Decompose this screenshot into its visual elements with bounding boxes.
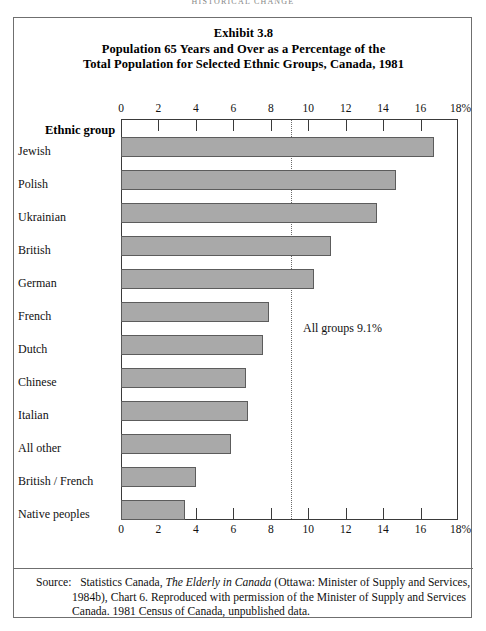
source-publication-title: The Elderly in Canada	[165, 576, 271, 589]
category-label-german: German	[18, 276, 118, 291]
xtick-label-bottom-14: 14	[377, 523, 389, 535]
xtick-label-bottom-8: 8	[268, 523, 274, 535]
bar-dutch[interactable]	[121, 335, 263, 355]
bar-native-peoples[interactable]	[121, 500, 185, 520]
all-groups-annotation: All groups 9.1%	[303, 321, 382, 336]
xtick-label-top-12: 12	[340, 102, 352, 114]
xtick-label-bottom-2: 2	[156, 523, 162, 535]
bar-british[interactable]	[121, 236, 331, 256]
xtick-label-top-14: 14	[377, 102, 389, 114]
category-label-polish: Polish	[18, 177, 118, 192]
category-label-jewish: Jewish	[18, 144, 118, 159]
tick-top-14	[383, 120, 384, 131]
category-label-british-french: British / French	[18, 474, 118, 489]
tick-bottom-14	[383, 508, 384, 519]
tick-top-0	[121, 120, 122, 131]
bar-ukrainian[interactable]	[121, 203, 377, 223]
page-running-header: HISTORICAL CHANGE	[0, 0, 486, 6]
top-axis-line	[121, 119, 458, 120]
tick-bottom-12	[346, 508, 347, 519]
xtick-label-bottom-0: 0	[118, 523, 124, 535]
xtick-label-top-6: 6	[230, 102, 236, 114]
bar-french[interactable]	[121, 302, 269, 322]
tick-top-2	[158, 120, 159, 131]
category-label-ukrainian: Ukrainian	[18, 210, 118, 225]
bar-polish[interactable]	[121, 170, 396, 190]
xtick-label-top-2: 2	[156, 102, 162, 114]
source-note: Source: Statistics Canada, The Elderly i…	[36, 576, 486, 620]
source-text-before: Statistics Canada,	[80, 576, 165, 589]
tick-top-8	[271, 120, 272, 131]
category-label-dutch: Dutch	[18, 342, 118, 357]
category-label-native-peoples: Native peoples	[18, 507, 118, 522]
xtick-label-top-0: 0	[118, 102, 124, 114]
tick-top-16	[421, 120, 422, 131]
tick-bottom-4	[196, 508, 197, 519]
bar-all-other[interactable]	[121, 434, 231, 454]
tick-bottom-10	[308, 508, 309, 519]
bar-italian[interactable]	[121, 401, 248, 421]
source-label: Source:	[36, 576, 71, 589]
exhibit-frame: Exhibit 3.8 Population 65 Years and Over…	[13, 17, 472, 618]
plot-area: 0 2 4 6 8 10 12 14 16 18% 0 2 4 6 8 10 1…	[121, 119, 458, 519]
tick-top-12	[346, 120, 347, 131]
bar-british-french[interactable]	[121, 467, 196, 487]
category-label-column: Jewish Polish Ukrainian British German F…	[32, 119, 118, 519]
tick-top-10	[308, 120, 309, 131]
bar-chart: Ethnic group Jewish Polish Ukrainian Bri…	[14, 18, 473, 619]
category-label-french: French	[18, 309, 118, 324]
xtick-label-top-18: 18%	[450, 102, 471, 114]
xtick-label-bottom-10: 10	[302, 523, 314, 535]
xtick-label-top-8: 8	[268, 102, 274, 114]
xtick-label-bottom-6: 6	[230, 523, 236, 535]
right-axis-line	[457, 119, 458, 520]
category-label-chinese: Chinese	[18, 375, 118, 390]
tick-bottom-8	[271, 508, 272, 519]
bar-jewish[interactable]	[121, 137, 434, 157]
xtick-label-top-4: 4	[193, 102, 199, 114]
xtick-label-bottom-18: 18%	[450, 523, 471, 535]
tick-top-6	[233, 120, 234, 131]
xtick-label-bottom-16: 16	[415, 523, 427, 535]
category-label-all-other: All other	[18, 441, 118, 456]
xtick-label-top-16: 16	[415, 102, 427, 114]
xtick-label-top-10: 10	[302, 102, 314, 114]
bar-chinese[interactable]	[121, 368, 246, 388]
tick-bottom-16	[421, 508, 422, 519]
xtick-label-bottom-4: 4	[193, 523, 199, 535]
category-label-italian: Italian	[18, 408, 118, 423]
tick-bottom-6	[233, 508, 234, 519]
bar-german[interactable]	[121, 269, 314, 289]
tick-top-4	[196, 120, 197, 131]
xtick-label-bottom-12: 12	[340, 523, 352, 535]
source-divider	[14, 568, 473, 569]
category-label-british: British	[18, 243, 118, 258]
